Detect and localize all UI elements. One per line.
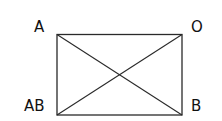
label-top-left: A xyxy=(34,20,44,35)
label-top-right: O xyxy=(191,20,203,35)
label-bottom-right: B xyxy=(191,99,201,114)
diagram: A O AB B xyxy=(0,0,222,121)
label-bottom-left: AB xyxy=(24,99,45,114)
